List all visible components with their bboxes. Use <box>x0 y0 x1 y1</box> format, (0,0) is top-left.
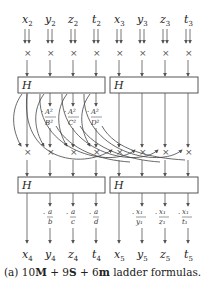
bottom-factors-right: · x₁ y₁ · x₁ z₁ · x₁ t₁ <box>132 208 192 226</box>
multiply-icon: × <box>70 147 78 157</box>
multiply-icon: × <box>162 48 170 58</box>
input-labels: x2 y2 z2 t2 x3 y3 z3 t3 <box>22 13 193 28</box>
hadamard-label: H <box>113 179 124 192</box>
hadamard-label: H <box>21 79 32 92</box>
output-label-y5: y5 <box>136 248 148 263</box>
factor-denominator: z₁ <box>158 218 166 226</box>
ladder-diagram: x2 y2 z2 t2 x3 y3 z3 t3 × × × × × × × × <box>0 0 213 287</box>
hadamard-label: H <box>113 79 124 92</box>
input-label-z2: z2 <box>67 13 78 28</box>
factor-denominator: c <box>71 218 75 226</box>
factor-denominator: b <box>48 218 53 226</box>
factor-numerator: A² <box>44 108 53 116</box>
multiply-icon: × <box>93 147 101 157</box>
factor-denominator: y₁ <box>135 218 143 226</box>
top-h-boxes: H H <box>18 77 198 93</box>
multiply-icon: × <box>93 48 101 58</box>
input-label-y2: y2 <box>44 13 56 28</box>
svg-text:·: · <box>155 210 157 218</box>
input-double-arrows <box>25 29 190 43</box>
middle-factors: · A² B² · A² C² · A² D² <box>41 108 102 127</box>
input-label-y3: y3 <box>136 13 148 28</box>
multiply-icon: × <box>47 147 55 157</box>
multiply-icon: × <box>70 48 78 58</box>
top-multiply-row: × × × × × × × × <box>24 48 193 58</box>
figure-caption: (a) 10M + 9S + 6m ladder formulas. <box>4 266 213 278</box>
multiply-icon: × <box>47 48 55 58</box>
output-label-t5: t5 <box>184 248 193 263</box>
factor-numerator: a <box>71 208 75 216</box>
multiply-icon: × <box>24 147 32 157</box>
svg-text:·: · <box>43 210 45 218</box>
multiply-icon: × <box>139 48 147 58</box>
multiply-icon: × <box>162 147 170 157</box>
factor-numerator: a <box>94 208 98 216</box>
svg-text:·: · <box>89 210 91 218</box>
multiply-icon: × <box>185 147 193 157</box>
factor-numerator: x₁ <box>182 208 189 216</box>
factor-denominator: t₁ <box>182 218 188 226</box>
output-label-z4: z4 <box>67 248 79 263</box>
arrows-into-bottom-h <box>27 160 188 176</box>
input-label-t2: t2 <box>92 13 101 28</box>
hadamard-label: H <box>21 179 32 192</box>
bottom-factors-left: · a b · a c · a d <box>43 208 99 226</box>
output-label-x5: x5 <box>114 248 125 263</box>
output-label-y4: y4 <box>44 248 56 263</box>
arrows-into-top-h <box>27 60 188 76</box>
factor-numerator: A² <box>67 108 76 116</box>
multiply-icon: × <box>24 48 32 58</box>
multiply-icon: × <box>185 48 193 58</box>
factor-denominator: D² <box>90 119 100 127</box>
factor-denominator: d <box>94 218 99 226</box>
factor-numerator: A² <box>90 108 99 116</box>
factor-numerator: x₁ <box>136 208 143 216</box>
input-label-z3: z3 <box>159 13 170 28</box>
output-labels: x4 y4 z4 t4 x5 y5 z5 t5 <box>22 248 193 263</box>
multiply-icon: × <box>116 48 124 58</box>
multiply-icon: × <box>116 147 124 157</box>
svg-text:·: · <box>132 210 134 218</box>
multiply-icon: × <box>139 147 147 157</box>
bottom-h-boxes: H H <box>18 177 198 193</box>
output-label-z5: z5 <box>159 248 170 263</box>
input-label-x2: x2 <box>22 13 33 28</box>
output-label-x4: x4 <box>22 248 33 263</box>
factor-numerator: a <box>48 208 52 216</box>
svg-text:·: · <box>178 210 180 218</box>
output-label-t4: t4 <box>92 248 101 263</box>
svg-text:·: · <box>66 210 68 218</box>
input-label-t3: t3 <box>184 13 193 28</box>
factor-numerator: x₁ <box>159 208 166 216</box>
input-label-x3: x3 <box>114 13 125 28</box>
